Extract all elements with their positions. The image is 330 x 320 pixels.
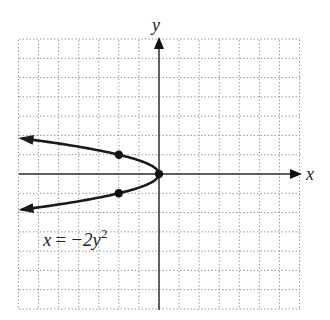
data-point (115, 189, 123, 197)
y-axis-label: y (150, 15, 160, 35)
equation-label: x=−2y2 (42, 226, 107, 250)
curve-arrow-lower-icon (19, 203, 35, 213)
parabola-chart: x y x=−2y2 (0, 0, 330, 320)
equation-rhs: −2y (70, 229, 101, 250)
data-point (155, 170, 163, 178)
x-axis-label: x (305, 164, 314, 184)
equation-exponent: 2 (101, 226, 108, 241)
curve-arrow-upper-icon (19, 135, 35, 145)
x-axis-arrow-icon (290, 169, 302, 179)
data-point (115, 151, 123, 159)
equation-lhs: x (42, 229, 52, 250)
equation-equals: = (55, 229, 66, 250)
